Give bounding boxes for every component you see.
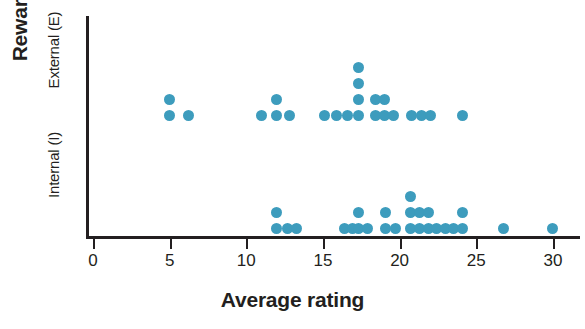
data-point <box>388 110 399 121</box>
data-point <box>353 207 364 218</box>
x-axis-tick-label: 5 <box>150 250 190 272</box>
data-point <box>342 110 353 121</box>
x-axis-tick <box>93 239 95 249</box>
data-point <box>353 94 364 105</box>
x-axis-line <box>86 236 580 239</box>
x-axis-tick <box>553 239 555 249</box>
data-point <box>380 207 391 218</box>
data-point <box>271 207 282 218</box>
data-point <box>284 110 295 121</box>
x-axis-title: Average rating <box>0 288 585 312</box>
data-point <box>457 110 468 121</box>
data-point <box>353 110 364 121</box>
x-axis-tick-label: 30 <box>533 250 573 272</box>
data-point <box>457 223 468 234</box>
data-point <box>379 94 390 105</box>
x-axis-tick-label: 0 <box>73 250 113 272</box>
x-axis-tick-label: 10 <box>226 250 266 272</box>
data-point <box>423 207 434 218</box>
data-point <box>319 110 330 121</box>
data-point <box>271 110 282 121</box>
x-axis-tick <box>323 239 325 249</box>
y-axis-title: Reward <box>6 0 34 94</box>
data-point <box>425 110 436 121</box>
x-axis-tick <box>476 239 478 249</box>
x-axis-tick-label: 15 <box>303 250 343 272</box>
data-point <box>256 110 267 121</box>
data-point <box>331 110 342 121</box>
data-point <box>498 223 509 234</box>
data-point <box>164 94 175 105</box>
data-point <box>164 110 175 121</box>
data-point <box>183 110 194 121</box>
data-point <box>291 223 302 234</box>
data-point <box>271 223 282 234</box>
data-point <box>390 223 401 234</box>
y-axis-line <box>86 16 89 238</box>
x-axis-tick <box>246 239 248 249</box>
x-axis-tick <box>400 239 402 249</box>
data-point <box>405 191 416 202</box>
data-point <box>547 223 558 234</box>
data-point <box>457 207 468 218</box>
x-axis-tick-label: 25 <box>456 250 496 272</box>
y-category-label-internal: Internal (I) <box>44 95 64 235</box>
data-point <box>353 62 364 73</box>
data-point <box>353 78 364 89</box>
data-point <box>271 94 282 105</box>
dot-plot-figure: Reward External (E) Internal (I) 0510152… <box>0 0 585 329</box>
data-point <box>362 223 373 234</box>
x-axis-tick <box>170 239 172 249</box>
x-axis-tick-label: 20 <box>380 250 420 272</box>
